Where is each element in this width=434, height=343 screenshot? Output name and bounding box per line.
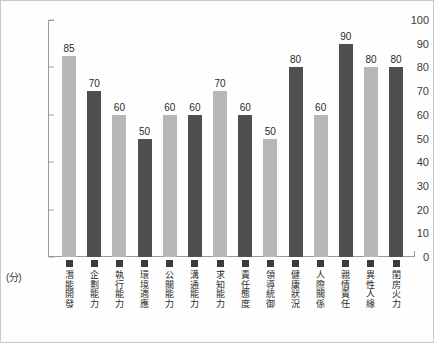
x-axis-label-14: 閨房火力 <box>386 260 406 308</box>
x-axis-label-text: 求知能力 <box>215 270 225 308</box>
y-tick-label: 60 <box>417 109 429 120</box>
x-axis-label-text: 環境適應 <box>140 270 150 308</box>
x-axis-label-text: 溝通能力 <box>190 270 200 308</box>
y-tick-label: 30 <box>417 180 429 191</box>
x-axis-label-text: 健康狀況 <box>291 270 301 308</box>
x-axis-label-text: 閨房火力 <box>391 270 401 308</box>
bar-column: 50 <box>263 20 277 257</box>
bar-value-label: 70 <box>214 79 225 89</box>
x-axis-label-text: 責任態度 <box>240 270 250 308</box>
y-tick-label: 20 <box>417 204 429 215</box>
x-axis-label-12: 親情責任 <box>336 260 356 308</box>
x-axis-label-4: 環境適應 <box>135 260 155 308</box>
x-axis-label-text: 領導統御 <box>265 270 275 308</box>
x-axis-label-text: 異性人緣 <box>366 270 376 308</box>
legend-swatch-icon <box>242 260 249 267</box>
bar-value-label: 60 <box>240 103 251 113</box>
legend-swatch-icon <box>267 260 274 267</box>
legend-swatch-icon <box>66 260 73 267</box>
bar-column: 90 <box>339 20 353 257</box>
legend-swatch-icon <box>141 260 148 267</box>
bar-column: 60 <box>238 20 252 257</box>
bar-value-label: 60 <box>315 103 326 113</box>
bar <box>314 115 328 257</box>
y-tick-label: 90 <box>417 38 429 49</box>
bar-chart: 1009080706050403020100 (分) 8570605060607… <box>0 0 434 343</box>
y-tick-label: 70 <box>417 86 429 97</box>
x-axis-label-8: 責任態度 <box>235 260 255 308</box>
bar-column: 85 <box>62 20 76 257</box>
bar <box>188 115 202 257</box>
x-axis-label-11: 人際關係 <box>311 260 331 308</box>
bar-value-label: 85 <box>64 44 75 54</box>
x-axis-label-2: 企劃能力 <box>84 260 104 308</box>
legend-swatch-icon <box>393 260 400 267</box>
legend-swatch-icon <box>166 260 173 267</box>
bar-value-label: 80 <box>290 55 301 65</box>
x-axis-labels: 潛能開發企劃能力執行能力環境適應公關能力溝通能力求知能力責任態度領導統御健康狀況… <box>49 260 415 343</box>
bar-column: 80 <box>364 20 378 257</box>
bar-value-label: 60 <box>189 103 200 113</box>
bar <box>87 91 101 257</box>
bar-column: 50 <box>138 20 152 257</box>
x-axis-label-5: 公關能力 <box>160 260 180 308</box>
bar-value-label: 70 <box>89 79 100 89</box>
bar-value-label: 50 <box>265 127 276 137</box>
bar <box>364 67 378 257</box>
bar-column: 70 <box>213 20 227 257</box>
bar-column: 80 <box>289 20 303 257</box>
bar <box>163 115 177 257</box>
bar-column: 80 <box>389 20 403 257</box>
bar <box>62 56 76 257</box>
bar <box>339 44 353 257</box>
bar <box>112 115 126 257</box>
bar-value-label: 60 <box>114 103 125 113</box>
y-tick-label: 10 <box>417 228 429 239</box>
legend-swatch-icon <box>116 260 123 267</box>
plot-area: 8570605060607060508060908080 <box>49 20 415 257</box>
x-axis-label-13: 異性人緣 <box>361 260 381 308</box>
x-axis-label-text: 執行能力 <box>114 270 124 308</box>
x-axis-label-text: 潛能開發 <box>64 270 74 308</box>
bar <box>238 115 252 257</box>
bar <box>213 91 227 257</box>
y-tick-label: 50 <box>417 133 429 144</box>
legend-swatch-icon <box>342 260 349 267</box>
legend-swatch-icon <box>91 260 98 267</box>
y-tick-label: 80 <box>417 62 429 73</box>
bar-column: 60 <box>314 20 328 257</box>
legend-swatch-icon <box>292 260 299 267</box>
bar-value-label: 80 <box>365 55 376 65</box>
x-axis-label-text: 人際關係 <box>316 270 326 308</box>
x-axis-label-6: 溝通能力 <box>185 260 205 308</box>
bar-column: 70 <box>87 20 101 257</box>
x-axis-label-text: 親情責任 <box>341 270 351 308</box>
bar-column: 60 <box>112 20 126 257</box>
bar-value-label: 80 <box>391 55 402 65</box>
y-tick-label: 0 <box>423 252 429 263</box>
bar <box>263 139 277 258</box>
bar <box>138 139 152 258</box>
x-axis-label-10: 健康狀況 <box>286 260 306 308</box>
x-axis-label-3: 執行能力 <box>109 260 129 308</box>
x-axis-label-7: 求知能力 <box>210 260 230 308</box>
x-axis-label-text: 公關能力 <box>165 270 175 308</box>
bar-value-label: 60 <box>164 103 175 113</box>
bar <box>389 67 403 257</box>
legend-swatch-icon <box>317 260 324 267</box>
y-tick-label: 40 <box>417 157 429 168</box>
legend-swatch-icon <box>217 260 224 267</box>
bar <box>289 67 303 257</box>
y-axis <box>1 1 49 266</box>
x-axis-label-1: 潛能開發 <box>59 260 79 308</box>
x-axis-label-text: 企劃能力 <box>89 270 99 308</box>
bar-value-label: 90 <box>340 32 351 42</box>
legend-swatch-icon <box>367 260 374 267</box>
bar-column: 60 <box>163 20 177 257</box>
bar-value-label: 50 <box>139 127 150 137</box>
bar-column: 60 <box>188 20 202 257</box>
unit-label: (分) <box>6 269 21 284</box>
x-axis-label-9: 領導統御 <box>260 260 280 308</box>
legend-swatch-icon <box>191 260 198 267</box>
